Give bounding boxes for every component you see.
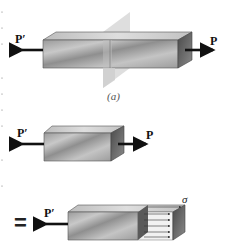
panel-a-left-force-label: P′ [15,33,26,45]
panel-a [22,12,213,88]
panel-b-left-force-label: P′ [17,127,28,139]
panel-a-caption: (a) [107,91,120,102]
panel-b [22,126,146,161]
panel-c-left-force-label: P′ [44,207,55,219]
margin-dots [1,11,2,186]
cutting-plane-front [103,40,112,68]
bar-top-face [44,126,124,133]
panel-a-right-force-label: P [210,35,217,47]
bar-top-face [68,205,185,212]
bar-front-face [44,133,111,161]
bar-top-face [43,32,192,40]
figure-canvas [0,0,227,242]
stress-sigma-label: σ [182,194,187,205]
bar-front-face [68,212,138,240]
equals-sign: = [14,212,27,234]
panel-c [46,205,185,240]
panel-b-right-force-label: P [146,129,153,141]
